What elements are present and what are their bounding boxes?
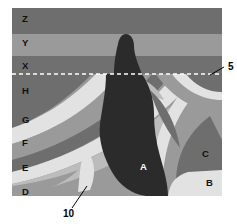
unit-label-a: A (140, 161, 147, 172)
unit-label-x: X (22, 60, 29, 71)
unit-label-d: D (22, 186, 29, 197)
layer-z-band (12, 8, 222, 34)
figure-root: Z Y X H G F E D C B A 5 10 (0, 0, 237, 224)
cross-section-body (12, 8, 222, 196)
unit-label-z: Z (22, 13, 28, 24)
callout-label-5: 5 (228, 61, 234, 72)
unit-label-c: C (202, 148, 209, 159)
unit-label-f: F (22, 137, 28, 148)
unit-label-b: B (206, 177, 213, 188)
unit-label-h: H (22, 85, 29, 96)
unit-label-y: Y (22, 37, 29, 48)
callout-label-10: 10 (63, 208, 75, 219)
unit-label-e: E (22, 162, 28, 173)
unit-label-g: G (22, 114, 29, 125)
geologic-cross-section-svg: Z Y X H G F E D C B A 5 10 (0, 0, 237, 224)
